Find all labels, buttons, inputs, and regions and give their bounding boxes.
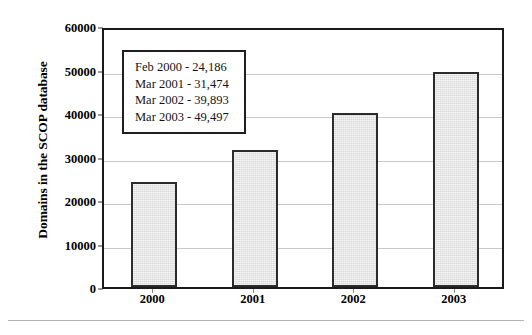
x-tick-label: 2000 [112, 292, 192, 307]
y-tick-label: 0 [38, 282, 96, 297]
y-tick-label: 40000 [38, 108, 96, 123]
x-axis-tick-labels: 2000 2001 2002 2003 [102, 292, 504, 312]
legend-line: Feb 2000 - 24,186 [135, 59, 244, 76]
x-tick-mark [152, 289, 153, 293]
y-tick-label: 10000 [38, 238, 96, 253]
x-tick-mark [454, 289, 455, 293]
bar-2000 [131, 182, 177, 287]
y-tick-label: 30000 [38, 151, 96, 166]
page-divider-rule [8, 320, 524, 321]
annotation-legend-box: Feb 2000 - 24,186 Mar 2001 - 31,474 Mar … [122, 50, 246, 134]
legend-line: Mar 2001 - 31,474 [135, 76, 244, 93]
y-tick-label: 20000 [38, 195, 96, 210]
x-tick-label: 2002 [313, 292, 393, 307]
y-tick-label: 50000 [38, 64, 96, 79]
x-tick-label: 2001 [213, 292, 293, 307]
legend-line: Mar 2003 - 49,497 [135, 109, 244, 126]
bar-chart-figure: Domains in the SCOP database 0 10000 200… [0, 0, 532, 335]
bar-2001 [232, 150, 278, 287]
bar-2003 [433, 72, 479, 287]
x-tick-mark [353, 289, 354, 293]
y-tick-label: 60000 [38, 21, 96, 36]
x-tick-mark [253, 289, 254, 293]
legend-line: Mar 2002 - 39,893 [135, 92, 244, 109]
y-axis-tick-labels: 0 10000 20000 30000 40000 50000 60000 [38, 28, 96, 289]
bar-2002 [332, 113, 378, 287]
x-tick-label: 2003 [414, 292, 494, 307]
